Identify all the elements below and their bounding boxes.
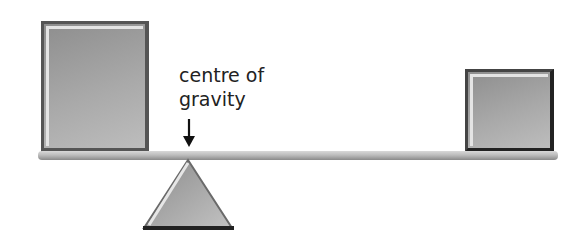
label-line-2: gravity	[179, 87, 264, 111]
large-weight	[41, 21, 149, 152]
fulcrum-triangle	[140, 158, 240, 234]
down-arrow-icon	[182, 118, 196, 148]
label-line-1: centre of	[179, 63, 264, 87]
lever-beam	[38, 151, 558, 160]
centre-of-gravity-label: centre of gravity	[179, 63, 264, 111]
small-weight	[465, 69, 554, 152]
